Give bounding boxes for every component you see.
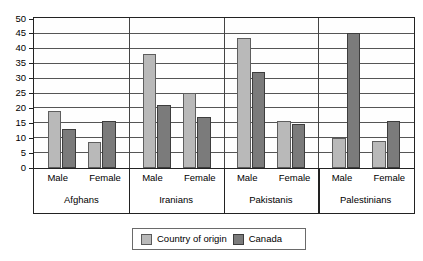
sub-label-pakistanis-male: Male [224, 172, 271, 183]
y-axis-tick-label: 10 [2, 133, 26, 143]
y-axis-tick-label: 30 [2, 73, 26, 83]
legend-label-canada: Canada [249, 234, 282, 244]
legend-item-country-of-origin: Country of origin [141, 234, 227, 245]
sub-label-pakistanis-female: Female [271, 172, 318, 183]
legend-swatch-icon-country-of-origin [141, 234, 152, 245]
y-axis-tick-label: 40 [2, 43, 26, 53]
group-label-pakistanis: Pakistanis [224, 194, 319, 205]
bar-afghans-male-origin [48, 111, 62, 168]
sub-label-afghans-female: Female [81, 172, 128, 183]
legend-label-country-of-origin: Country of origin [157, 234, 227, 244]
chart-legend: Country of origin Canada [132, 228, 306, 250]
bar-palestinians-female-canada [387, 121, 401, 167]
y-axis-tick-label: 50 [2, 14, 26, 24]
category-label-band: MaleFemaleAfghansMaleFemaleIraniansMaleF… [33, 169, 415, 214]
sub-label-iranians-female: Female [176, 172, 223, 183]
y-axis-tick-label: 0 [2, 163, 26, 173]
y-axis-tick-label: 45 [2, 28, 26, 38]
bar-afghans-female-origin [88, 142, 102, 167]
legend-item-canada: Canada [233, 234, 282, 245]
y-axis-tick-label: 25 [2, 88, 26, 98]
bar-pakistanis-female-origin [277, 121, 291, 167]
sub-label-iranians-male: Male [129, 172, 176, 183]
group-label-iranians: Iranians [129, 194, 224, 205]
y-axis-tick-label: 20 [2, 103, 26, 113]
sub-label-afghans-male: Male [34, 172, 81, 183]
bar-afghans-female-canada [102, 121, 116, 167]
bar-pakistanis-male-origin [237, 38, 251, 168]
bar-iranians-male-origin [143, 54, 157, 167]
legend-swatch-icon-canada [233, 234, 244, 245]
bar-afghans-male-canada [62, 129, 76, 168]
bar-palestinians-male-canada [347, 33, 361, 167]
bar-chart: 50454035302520151050 MaleFemaleAfghansMa… [0, 0, 423, 261]
group-label-afghans: Afghans [34, 194, 129, 205]
bar-pakistanis-male-canada [252, 72, 266, 167]
sub-label-palestinians-female: Female [366, 172, 413, 183]
bar-palestinians-female-origin [372, 141, 386, 168]
y-axis-tick-label: 15 [2, 118, 26, 128]
bars-layer [35, 19, 414, 168]
bar-palestinians-male-origin [332, 138, 346, 168]
bar-pakistanis-female-canada [292, 124, 306, 167]
sub-label-palestinians-male: Male [318, 172, 365, 183]
y-axis-tick-label: 35 [2, 58, 26, 68]
y-axis-tick-label: 5 [2, 148, 26, 158]
bar-iranians-female-origin [183, 93, 197, 168]
bar-iranians-male-canada [157, 105, 171, 168]
group-label-palestinians: Palestinians [318, 194, 413, 205]
bar-iranians-female-canada [197, 117, 211, 168]
